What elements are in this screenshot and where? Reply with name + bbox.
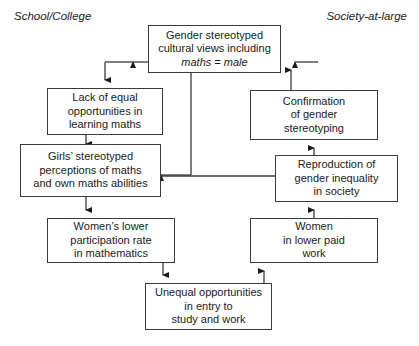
node-gender-stereotyped-cultural-views[interactable]: Gender stereotypedcultural views includi…	[148, 25, 281, 73]
node-line-2: cultural views including	[158, 42, 271, 54]
node-womens-lower-participation-text: Women’s lower participation rate in math…	[70, 220, 151, 261]
node-line-1: Gender stereotyped	[166, 29, 263, 41]
flowchart-diagram: School/College Society-at-large Gender s…	[0, 0, 419, 346]
node-lack-of-equal-opportunities-text: Lack of equal opportunities in learning …	[68, 91, 143, 132]
node-confirmation-of-gender-stereotyping[interactable]: Confirmation of gender stereotyping	[250, 90, 378, 140]
caption-society-at-large: Society-at-large	[326, 10, 407, 22]
node-women-in-lower-paid-work[interactable]: Women in lower paid work	[250, 218, 378, 263]
node-lack-of-equal-opportunities[interactable]: Lack of equal opportunities in learning …	[47, 88, 163, 135]
node-unequal-opportunities-entry-text: Unequal opportunities in entry to study …	[155, 286, 262, 327]
node-unequal-opportunities-entry[interactable]: Unequal opportunities in entry to study …	[145, 283, 272, 330]
caption-school-college: School/College	[14, 10, 91, 22]
node-women-in-lower-paid-work-text: Women in lower paid work	[283, 220, 345, 261]
node-girls-stereotyped-perceptions[interactable]: Girls’ stereotyped perceptions of maths …	[20, 144, 161, 197]
node-reproduction-of-gender-inequality[interactable]: Reproduction of gender inequality in soc…	[275, 155, 398, 202]
node-girls-stereotyped-perceptions-text: Girls’ stereotyped perceptions of maths …	[33, 150, 147, 191]
node-gender-stereotyped-cultural-views-text: Gender stereotypedcultural views includi…	[158, 29, 271, 70]
node-confirmation-of-gender-stereotyping-text: Confirmation of gender stereotyping	[283, 95, 345, 136]
node-womens-lower-participation[interactable]: Women’s lower participation rate in math…	[47, 218, 175, 263]
node-reproduction-of-gender-inequality-text: Reproduction of gender inequality in soc…	[295, 158, 379, 199]
node-line-3-italic: maths = male	[181, 56, 247, 68]
